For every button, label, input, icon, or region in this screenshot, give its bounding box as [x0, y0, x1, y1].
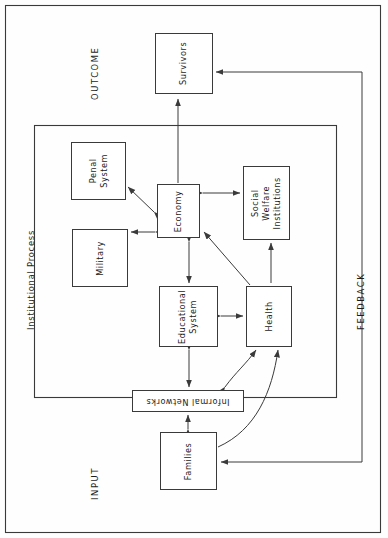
- node-economy-label: Economy: [173, 190, 184, 232]
- node-educational-system[interactable]: Educational System: [159, 286, 218, 347]
- label-outcome: OUTCOME: [90, 46, 100, 100]
- label-input: INPUT: [90, 467, 100, 500]
- node-social-welfare-institutions[interactable]: Social Welfare Institutions: [243, 166, 290, 240]
- node-social-welfare-institutions-label: Social Welfare Institutions: [250, 177, 282, 229]
- node-health-label: Health: [264, 301, 275, 331]
- label-institutional-process: Institutional Process: [26, 230, 36, 330]
- edge-informal-health: [225, 350, 256, 387]
- node-penal-system-label: Penal System: [88, 154, 110, 188]
- node-educational-system-label: Educational System: [178, 289, 200, 343]
- node-families-label: Families: [183, 442, 194, 479]
- node-families[interactable]: Families: [160, 432, 217, 490]
- node-informal-networks-label: Informal Networks: [146, 396, 230, 407]
- label-feedback: FEEDBACK: [356, 273, 366, 330]
- node-economy[interactable]: Economy: [157, 184, 200, 238]
- diagram-canvas: Survivors Penal System Military Economy …: [0, 0, 388, 538]
- node-informal-networks[interactable]: Informal Networks: [132, 390, 244, 412]
- node-military[interactable]: Military: [72, 229, 128, 287]
- node-military-label: Military: [95, 241, 106, 276]
- node-survivors-label: Survivors: [179, 42, 190, 85]
- edge-economy-penal: [128, 187, 154, 212]
- node-health[interactable]: Health: [246, 286, 292, 347]
- node-penal-system[interactable]: Penal System: [71, 142, 126, 200]
- node-survivors[interactable]: Survivors: [155, 33, 213, 94]
